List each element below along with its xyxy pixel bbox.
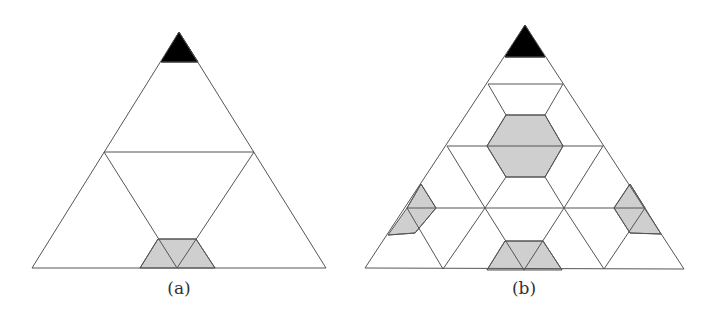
mid-right-inner-diagonal xyxy=(545,177,564,208)
diagram-canvas xyxy=(0,0,707,320)
figure-b-label: (b) xyxy=(512,278,536,298)
outer-triangle xyxy=(32,32,326,268)
figure-a xyxy=(32,32,326,268)
left-inner-diagonal xyxy=(104,152,177,268)
shaded-trapezoid xyxy=(140,239,215,268)
mid-left-outer-diagonal xyxy=(447,146,485,208)
apex-black-triangle xyxy=(161,32,198,62)
low-left-diagonal-a xyxy=(443,208,485,269)
apex-black-triangle xyxy=(505,25,545,57)
shaded-right-region xyxy=(614,184,661,234)
right-inner-diagonal xyxy=(177,152,254,268)
upper-right-diagonal xyxy=(545,84,563,115)
upper-left-diagonal xyxy=(488,84,506,115)
mid-left-inner-diagonal xyxy=(485,177,506,208)
shaded-left-region xyxy=(388,184,436,235)
mid-right-outer-diagonal xyxy=(564,146,603,208)
low-right-diagonal-b xyxy=(564,208,604,269)
shaded-bottom-trapezoid xyxy=(487,241,562,270)
figure-b xyxy=(365,25,684,270)
figure-a-label: (a) xyxy=(167,278,190,298)
